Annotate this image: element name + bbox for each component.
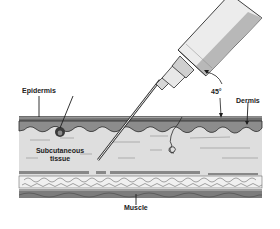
label-subcutaneous-line1: Subcutaneous: [32, 147, 88, 155]
injection-diagram: Epidermis 45° Dermis Subcutaneous tissue…: [0, 0, 280, 229]
label-subcutaneous: Subcutaneous tissue: [32, 147, 88, 163]
syringe-barrel: [178, 0, 262, 76]
label-dermis: Dermis: [236, 97, 260, 105]
epidermis-layer: [19, 116, 262, 121]
label-epidermis: Epidermis: [22, 87, 56, 95]
label-subcutaneous-line2: tissue: [32, 155, 88, 163]
label-angle: 45°: [211, 88, 222, 96]
label-muscle: Muscle: [124, 204, 148, 212]
diagram-canvas: [0, 0, 280, 229]
fascia-band: [19, 171, 89, 174]
